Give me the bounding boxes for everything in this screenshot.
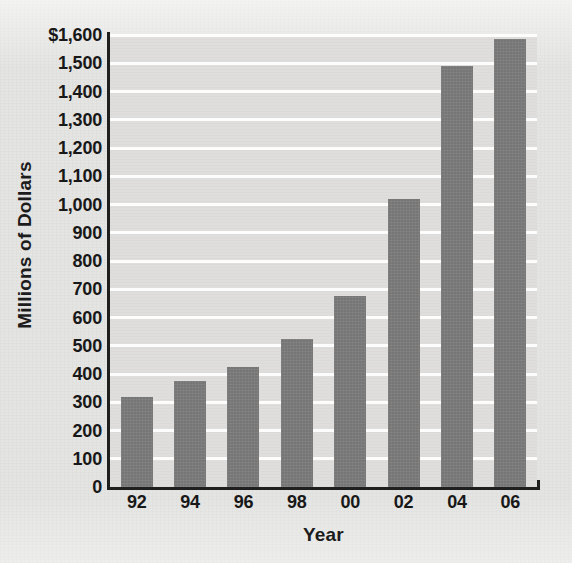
x-axis-tick-label: 96 [234,492,254,513]
y-axis-tick-label: 300 [73,392,102,413]
bar [388,199,420,487]
x-axis-tick-label: 06 [501,492,521,513]
bar [174,381,206,487]
x-axis-line [107,487,540,490]
y-axis-tick-label: 1,400 [58,81,102,102]
y-axis-tick-label: 400 [73,364,102,385]
y-axis-tick-label: 1,300 [58,109,102,130]
y-axis-tick-label: $1,600 [48,25,102,46]
bar [281,339,313,487]
y-axis-tick-label: 0 [92,477,102,498]
y-axis-tick-label: 600 [73,307,102,328]
y-axis-tick-label: 1,200 [58,138,102,159]
x-axis-tick-labels: 9294969800020406 [110,492,537,520]
y-axis-tick-label: 200 [73,420,102,441]
x-axis-tick-label: 00 [340,492,360,513]
x-axis-tick-label: 94 [180,492,200,513]
bar [334,296,366,487]
y-axis-tick-label: 100 [73,448,102,469]
x-axis-tick-label: 92 [127,492,147,513]
bar [121,397,153,487]
y-axis-tick-label: 800 [73,251,102,272]
bar [227,367,259,487]
x-axis-tick-label: 02 [394,492,414,513]
y-axis-title-text: Millions of Dollars [14,161,36,328]
x-axis-title: Year [110,524,537,546]
x-axis-end-tick [537,480,540,490]
y-axis-tick-label: 900 [73,222,102,243]
y-axis-tick-label: 500 [73,335,102,356]
y-axis-title: Millions of Dollars [8,0,42,490]
bar [494,39,526,487]
y-axis-line [107,32,110,490]
y-axis-tick-labels: 01002003004005006007008009001,0001,1001,… [38,35,106,487]
y-axis-tick-label: 1,000 [58,194,102,215]
bar-chart-figure: Millions of Dollars 01002003004005006007… [0,0,572,563]
plot-area [110,35,537,487]
y-axis-tick-label: 1,500 [58,53,102,74]
bar [441,66,473,487]
y-axis-corner [107,32,110,35]
y-axis-tick-label: 1,100 [58,166,102,187]
x-axis-tick-label: 04 [447,492,467,513]
bar-series [110,35,537,487]
y-axis-tick-label: 700 [73,279,102,300]
x-axis-tick-label: 98 [287,492,307,513]
